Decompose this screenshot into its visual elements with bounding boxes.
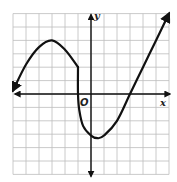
curve-left bbox=[13, 40, 78, 90]
x-axis-label: x bbox=[159, 97, 167, 108]
function-graph: x y O bbox=[0, 0, 177, 182]
y-axis-label: y bbox=[93, 10, 101, 21]
origin-label: O bbox=[80, 97, 89, 108]
axes bbox=[15, 15, 170, 177]
